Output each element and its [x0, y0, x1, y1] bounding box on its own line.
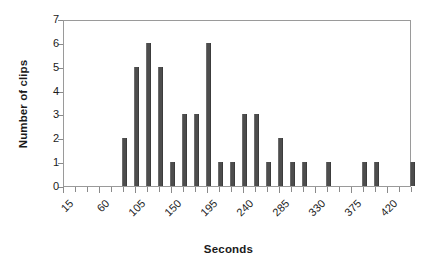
histogram-chart: Number of clips Seconds 0123456715601051…	[0, 0, 427, 272]
x-axis-tick-label: 375	[325, 197, 363, 235]
plot-area	[63, 20, 411, 187]
x-axis-tick-label: 285	[253, 197, 291, 235]
x-axis-tick	[219, 187, 220, 192]
x-axis-tick-label: 195	[181, 197, 219, 235]
bar-series	[64, 21, 410, 186]
x-axis-tick	[327, 187, 328, 192]
bar	[242, 114, 247, 186]
x-axis-tick-label: 330	[289, 197, 327, 235]
x-axis-tick	[111, 187, 112, 192]
bar	[170, 162, 175, 186]
x-axis-title: Seconds	[0, 243, 427, 255]
bar	[206, 43, 211, 186]
x-axis-tick	[339, 187, 340, 192]
y-axis-tick-label: 3	[19, 108, 59, 120]
x-axis-tick-label: 420	[361, 197, 399, 235]
y-axis-tick-label: 0	[19, 180, 59, 192]
x-axis-tick	[267, 187, 268, 192]
x-axis-tick	[375, 187, 376, 192]
y-axis-tick-label: 1	[19, 156, 59, 168]
x-axis-tick	[99, 187, 100, 193]
x-axis-tick	[207, 187, 208, 193]
x-axis-tick	[399, 187, 400, 192]
x-axis-tick	[147, 187, 148, 192]
x-axis-tick	[87, 187, 88, 192]
x-axis-tick	[171, 187, 172, 193]
bar	[146, 43, 151, 186]
bar	[218, 162, 223, 186]
x-axis-tick	[291, 187, 292, 192]
bar	[362, 162, 367, 186]
y-axis-title: Number of clips	[17, 34, 29, 174]
bar	[302, 162, 307, 186]
x-axis-tick	[351, 187, 352, 193]
y-axis-tick-label: 2	[19, 132, 59, 144]
bar	[194, 114, 199, 186]
x-axis-tick-label: 105	[109, 197, 147, 235]
x-axis-tick	[279, 187, 280, 193]
x-axis-tick	[123, 187, 124, 192]
x-axis-tick	[231, 187, 232, 192]
x-axis-tick-label: 15	[37, 197, 75, 235]
x-axis-tick	[363, 187, 364, 192]
y-axis-tick-label: 6	[19, 37, 59, 49]
bar	[254, 114, 259, 186]
bar	[374, 162, 379, 186]
x-axis-tick	[243, 187, 244, 193]
x-axis-tick	[195, 187, 196, 192]
bar	[122, 138, 127, 186]
bar	[134, 67, 139, 186]
x-axis-tick	[75, 187, 76, 192]
bar	[266, 162, 271, 186]
x-axis-tick	[303, 187, 304, 192]
bar	[230, 162, 235, 186]
bar	[182, 114, 187, 186]
x-axis-tick	[387, 187, 388, 193]
bar	[158, 67, 163, 186]
x-axis-tick	[315, 187, 316, 193]
x-axis-tick-label: 150	[145, 197, 183, 235]
y-axis-tick-label: 5	[19, 61, 59, 73]
bar	[278, 138, 283, 186]
bar	[410, 162, 415, 186]
bar	[290, 162, 295, 186]
x-axis-tick-label: 60	[73, 197, 111, 235]
x-axis-tick	[411, 187, 412, 192]
x-axis-tick	[159, 187, 160, 192]
y-axis-tick-label: 4	[19, 85, 59, 97]
x-axis-tick-label: 240	[217, 197, 255, 235]
y-axis-tick-label: 7	[19, 13, 59, 25]
x-axis-tick	[63, 187, 64, 193]
x-axis-tick	[255, 187, 256, 192]
x-axis-tick	[135, 187, 136, 193]
x-axis-tick	[183, 187, 184, 192]
bar	[326, 162, 331, 186]
